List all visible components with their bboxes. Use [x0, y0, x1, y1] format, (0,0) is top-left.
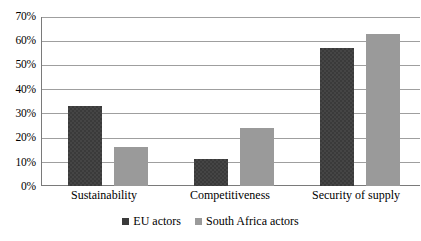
legend-label-south-africa-actors: South Africa actors	[206, 214, 299, 228]
bar-eu-actors-security-of-supply	[320, 48, 354, 186]
bar-south-africa-actors-security-of-supply	[366, 34, 400, 186]
legend-item-south-africa-actors: South Africa actors	[195, 214, 299, 228]
x-axis-labels: Sustainability Competitiveness Security …	[41, 188, 420, 206]
bars-layer	[41, 17, 420, 186]
legend-swatch-icon-south-africa-actors	[195, 218, 202, 225]
bar-chart: 70% 60% 50% 40% 30% 20% 10% 0%	[0, 0, 421, 241]
x-axis-tick-label-sustainability: Sustainability	[41, 188, 167, 203]
y-axis-tick-label: 50%	[0, 59, 36, 71]
y-axis-tick-label: 20%	[0, 132, 36, 144]
chart-legend: EU actors South Africa actors	[0, 212, 421, 230]
x-axis-tick-label-competitiveness: Competitiveness	[167, 188, 293, 203]
bar-eu-actors-sustainability	[68, 106, 102, 186]
legend-label-eu-actors: EU actors	[133, 214, 181, 228]
y-axis-tick-label: 30%	[0, 108, 36, 120]
legend-item-eu-actors: EU actors	[122, 214, 181, 228]
bar-south-africa-actors-sustainability	[114, 147, 148, 186]
legend-swatch-icon-eu-actors	[122, 218, 129, 225]
bar-group-sustainability	[41, 17, 167, 186]
y-axis-tick-label: 60%	[0, 35, 36, 47]
y-axis-tick-label: 0%	[0, 181, 36, 193]
bar-group-competitiveness	[167, 17, 293, 186]
bar-south-africa-actors-competitiveness	[240, 128, 274, 186]
y-axis-tick-label: 40%	[0, 84, 36, 96]
y-axis-tick-label: 70%	[0, 11, 36, 23]
x-axis-tick-label-security-of-supply: Security of supply	[293, 188, 419, 203]
y-axis-labels: 70% 60% 50% 40% 30% 20% 10% 0%	[0, 0, 38, 241]
bar-eu-actors-competitiveness	[194, 159, 228, 186]
bar-group-security-of-supply	[293, 17, 419, 186]
y-axis-tick-label: 10%	[0, 157, 36, 169]
